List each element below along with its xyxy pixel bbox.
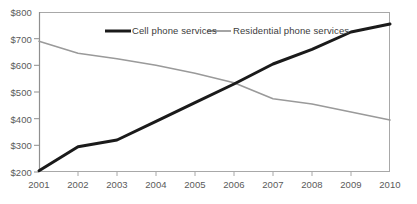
- xtick-label-2006: 2006: [214, 179, 254, 190]
- legend-label-residential-phone-services: Residential phone services: [233, 25, 349, 36]
- ytick-label-600: $600: [0, 60, 32, 71]
- ytick-label-400: $400: [0, 114, 32, 125]
- y-axis-ticks: [34, 39, 39, 172]
- legend-label-cell-phone-services: Cell phone services: [132, 25, 217, 36]
- xtick-label-2008: 2008: [292, 179, 332, 190]
- series-line-cell-phone-services: [39, 24, 390, 171]
- xtick-label-2007: 2007: [253, 179, 293, 190]
- x-axis-ticks: [78, 172, 351, 176]
- xtick-label-2005: 2005: [175, 179, 215, 190]
- ytick-label-700: $700: [0, 34, 32, 45]
- xtick-label-2009: 2009: [331, 179, 371, 190]
- ytick-label-500: $500: [0, 87, 32, 98]
- ytick-label-300: $300: [0, 140, 32, 151]
- xtick-label-2002: 2002: [58, 179, 98, 190]
- ytick-label-200: $200: [0, 167, 32, 178]
- line-chart: $800 $700 $600 $500 $400 $300 $200 2001 …: [0, 0, 417, 204]
- xtick-label-2004: 2004: [136, 179, 176, 190]
- xtick-label-2003: 2003: [97, 179, 137, 190]
- xtick-label-2001: 2001: [19, 179, 59, 190]
- xtick-label-2010: 2010: [370, 179, 410, 190]
- series-line-residential-phone-services: [39, 41, 390, 120]
- ytick-label-800: $800: [0, 7, 32, 18]
